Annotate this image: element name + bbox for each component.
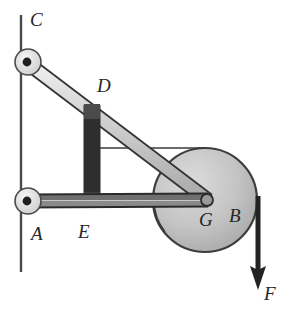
label-c: C bbox=[30, 10, 43, 29]
label-f: F bbox=[264, 284, 276, 303]
mechanism-drawing-canvas bbox=[0, 0, 289, 317]
node-g bbox=[201, 194, 213, 206]
label-d: D bbox=[97, 76, 111, 95]
pin-joint-c bbox=[15, 49, 41, 75]
bar-cg bbox=[26, 62, 208, 200]
bar-ag bbox=[26, 200, 208, 201]
label-g: G bbox=[199, 210, 213, 229]
pin-joint-a bbox=[15, 188, 41, 214]
mechanism-figure: C D A E G B F bbox=[0, 0, 289, 317]
bar-de bbox=[84, 104, 100, 207]
label-e: E bbox=[78, 222, 90, 241]
label-b: B bbox=[229, 206, 241, 225]
label-a: A bbox=[31, 224, 43, 243]
